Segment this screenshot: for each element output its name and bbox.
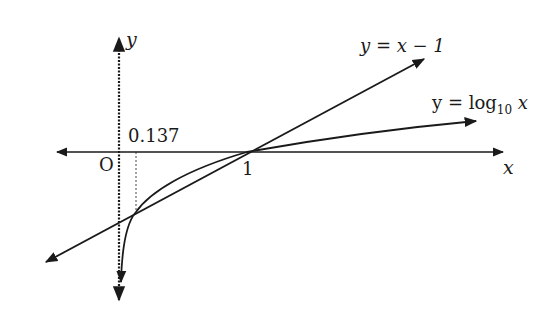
origin-label: O [99,154,114,175]
log-equation-base: 10 [497,103,512,117]
log-equation-prefix: y = log [432,92,497,113]
line-equation-label: y = x − 1 [360,35,445,56]
graph-svg [0,0,549,315]
log-equation-var: x [512,92,528,113]
x-axis-label: x [503,156,514,178]
diagram-canvas: y x O 1 0.137 y = x − 1 y = log10 x [0,0,549,315]
y-axis-label: y [126,28,137,50]
tick-label-1: 1 [242,158,253,179]
intersection-x-label: 0.137 [128,125,180,146]
log-equation-label: y = log10 x [432,92,528,117]
